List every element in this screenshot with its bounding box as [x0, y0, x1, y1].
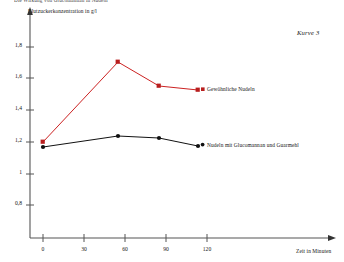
data-point-black: [157, 136, 161, 140]
series-black-line: [43, 136, 198, 147]
y-axis-arrow: [27, 7, 33, 15]
plot-area: [0, 0, 344, 262]
data-point-red: [196, 88, 200, 92]
data-point-red: [116, 60, 120, 64]
data-point-red: [41, 140, 45, 144]
data-point-black: [196, 144, 200, 148]
series-black: [41, 134, 205, 149]
axes-group: [27, 7, 336, 241]
chart-container: Die Wirkung von Glucomannan in Nudeln Ku…: [0, 0, 344, 262]
data-point-black: [116, 134, 120, 138]
series-red: [41, 60, 205, 144]
legend-marker-red: [201, 87, 205, 91]
data-point-red: [157, 84, 161, 88]
x-axis-arrow: [328, 235, 336, 241]
series-red-line: [43, 62, 198, 142]
data-point-black: [41, 145, 45, 149]
legend-marker-black: [201, 143, 205, 147]
